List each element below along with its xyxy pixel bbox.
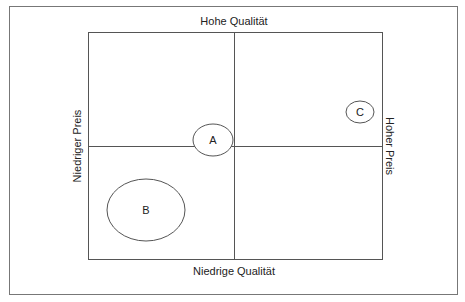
- bubble-a: A: [193, 124, 233, 156]
- positioning-map: Hohe Qualität Niedrige Qualität Niedrige…: [0, 0, 465, 302]
- bubble-label: C: [356, 106, 364, 118]
- axis-label-bottom: Niedrige Qualität: [193, 265, 275, 277]
- bubble-c: C: [346, 101, 374, 123]
- axis-label-left: Niedriger Preis: [71, 109, 83, 182]
- axis-label-right: Hoher Preis: [384, 117, 396, 176]
- bubble-label: A: [209, 134, 217, 146]
- axis-label-top: Hohe Qualität: [200, 15, 267, 27]
- bubble-label: B: [142, 204, 149, 216]
- bubble-b: B: [107, 179, 185, 241]
